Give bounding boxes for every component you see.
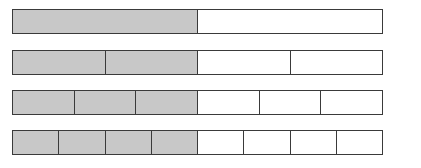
unshaded-segment [198,91,260,114]
shaded-segment [136,91,198,114]
shaded-segment [13,51,106,74]
shaded-segment [13,131,59,154]
unshaded-segment [198,51,291,74]
fraction-bar-halves [12,9,383,34]
unshaded-segment [291,51,383,74]
unshaded-segment [291,131,337,154]
unshaded-segment [244,131,290,154]
fraction-bar-eighths [12,130,383,155]
unshaded-segment [321,91,382,114]
unshaded-segment [260,91,322,114]
unshaded-segment [198,10,382,33]
shaded-segment [59,131,105,154]
shaded-segment [106,131,152,154]
shaded-segment [106,51,199,74]
shaded-segment [75,91,137,114]
fraction-bar-quarters [12,50,383,75]
fraction-bar-sixths [12,90,383,115]
unshaded-segment [337,131,382,154]
shaded-segment [152,131,198,154]
shaded-segment [13,10,198,33]
shaded-segment [13,91,75,114]
unshaded-segment [198,131,244,154]
